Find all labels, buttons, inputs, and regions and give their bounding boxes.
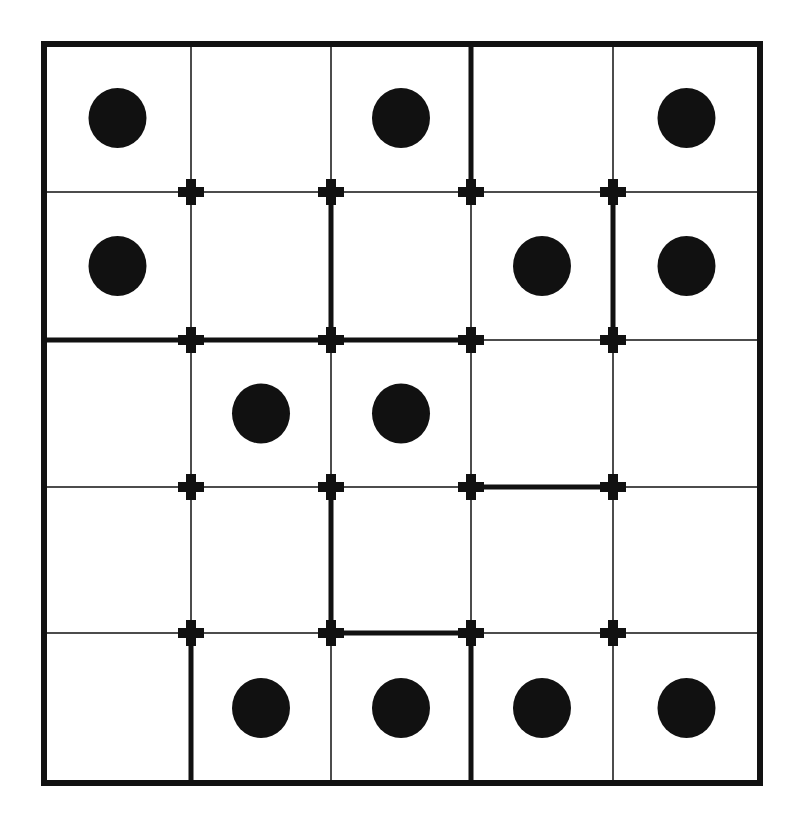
cross-marker-icon xyxy=(458,327,484,353)
cross-marker-icon xyxy=(318,327,344,353)
cross-marker-icon xyxy=(458,474,484,500)
dot-icon xyxy=(658,88,716,148)
cross-marker-icon xyxy=(600,474,626,500)
cross-marker-icon xyxy=(178,620,204,646)
cross-marker-icon xyxy=(318,620,344,646)
cross-marker-icon xyxy=(458,620,484,646)
dots-layer xyxy=(89,88,716,738)
dot-icon xyxy=(513,678,571,738)
cross-marker-icon xyxy=(318,474,344,500)
cross-marker-icon xyxy=(178,327,204,353)
dot-icon xyxy=(89,88,147,148)
cross-marker-icon xyxy=(600,327,626,353)
dot-icon xyxy=(89,236,147,296)
dot-icon xyxy=(232,678,290,738)
cross-marker-icon xyxy=(600,620,626,646)
cross-marker-icon xyxy=(600,179,626,205)
dot-icon xyxy=(372,678,430,738)
dot-icon xyxy=(232,384,290,444)
region-borders xyxy=(44,44,613,783)
cross-marker-icon xyxy=(178,179,204,205)
dot-icon xyxy=(372,384,430,444)
cross-marker-icon xyxy=(318,179,344,205)
cross-marker-icon xyxy=(458,179,484,205)
dot-icon xyxy=(658,678,716,738)
dot-icon xyxy=(513,236,571,296)
cross-marker-icon xyxy=(178,474,204,500)
dot-icon xyxy=(372,88,430,148)
dot-icon xyxy=(658,236,716,296)
puzzle-board xyxy=(0,0,792,817)
